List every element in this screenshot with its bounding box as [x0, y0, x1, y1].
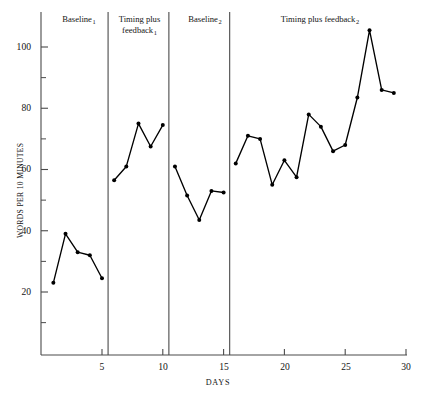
chart-figure: WORDS PER 10 MINUTES DAYS 100 80 60 40 2… — [0, 0, 443, 396]
data-point-day-18 — [258, 137, 262, 141]
data-point-day-2 — [64, 232, 68, 236]
data-point-day-20 — [282, 158, 286, 162]
data-point-day-9 — [149, 145, 153, 149]
data-line-TimingPlusFeedback2 — [236, 30, 394, 185]
data-point-day-14 — [209, 189, 213, 193]
axes-group — [41, 12, 407, 355]
data-point-day-25 — [343, 143, 347, 147]
data-point-day-24 — [331, 149, 335, 153]
data-line-TimingPlusFeedback1 — [114, 124, 163, 181]
data-point-day-1 — [51, 281, 55, 285]
chart-plot-area — [0, 0, 443, 396]
data-point-day-23 — [319, 125, 323, 129]
data-point-day-19 — [270, 183, 274, 187]
data-point-day-22 — [307, 112, 311, 116]
data-point-day-16 — [234, 161, 238, 165]
data-point-day-7 — [124, 164, 128, 168]
data-series-group — [51, 28, 395, 285]
data-point-day-6 — [112, 178, 116, 182]
data-line-Baseline2 — [175, 166, 224, 220]
data-point-day-10 — [161, 123, 165, 127]
data-point-day-5 — [100, 276, 104, 280]
data-point-day-8 — [136, 122, 140, 126]
data-point-day-3 — [76, 250, 80, 254]
data-point-day-27 — [368, 28, 372, 32]
data-line-Baseline1 — [53, 234, 102, 283]
data-point-day-26 — [355, 96, 359, 100]
data-point-day-28 — [380, 88, 384, 92]
data-point-day-17 — [246, 134, 250, 138]
data-point-day-29 — [392, 91, 396, 95]
data-point-day-11 — [173, 164, 177, 168]
data-point-day-4 — [88, 253, 92, 257]
data-point-day-12 — [185, 194, 189, 198]
data-point-day-21 — [295, 175, 299, 179]
phase-divider-group — [108, 12, 230, 355]
data-point-day-15 — [222, 190, 226, 194]
data-point-day-13 — [197, 218, 201, 222]
